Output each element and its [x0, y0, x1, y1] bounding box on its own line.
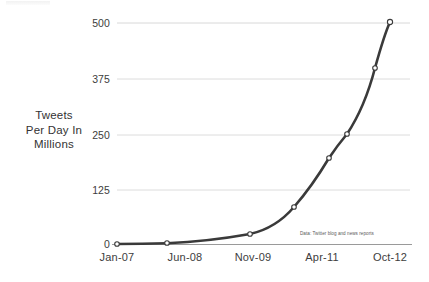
data-point-markers — [115, 19, 393, 246]
x-tick-label-apr-11: Apr-11 — [287, 251, 357, 263]
data-point-jun-08 — [165, 241, 170, 246]
source-annotation: Data: Twitter blog and news reports — [300, 231, 374, 236]
chart-container: Tweets Per Day In Millions 500 375 250 1… — [0, 0, 429, 282]
data-point-jan-07 — [115, 242, 120, 247]
data-point-mid-3 — [345, 132, 350, 137]
x-tick-label-nov-09: Nov-09 — [218, 251, 288, 263]
gridlines — [117, 23, 410, 190]
x-tick-label-oct-12: Oct-12 — [355, 251, 425, 263]
x-tick-label-jan-07: Jan-07 — [82, 251, 152, 263]
data-point-nov-09 — [248, 232, 253, 237]
data-point-mid-2 — [327, 156, 332, 161]
data-point-oct-12 — [387, 19, 392, 24]
data-point-mid-1 — [292, 205, 297, 210]
plot-area — [0, 0, 429, 282]
data-point-mid-4 — [373, 66, 378, 71]
x-tick-label-jun-08: Jun-08 — [150, 251, 220, 263]
